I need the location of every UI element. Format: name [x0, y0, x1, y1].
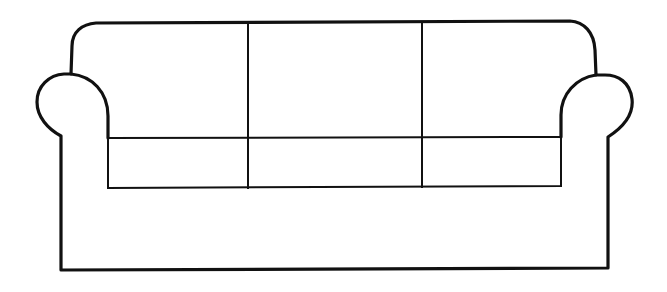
- left-arm-inner: [71, 74, 108, 138]
- right-arm-inner: [561, 75, 596, 137]
- sofa-illustration: [0, 0, 667, 292]
- seat-front: [108, 137, 561, 188]
- seat-top-line: [108, 137, 561, 138]
- sofa-outline: [37, 21, 632, 270]
- sofa-drawing: [0, 0, 667, 292]
